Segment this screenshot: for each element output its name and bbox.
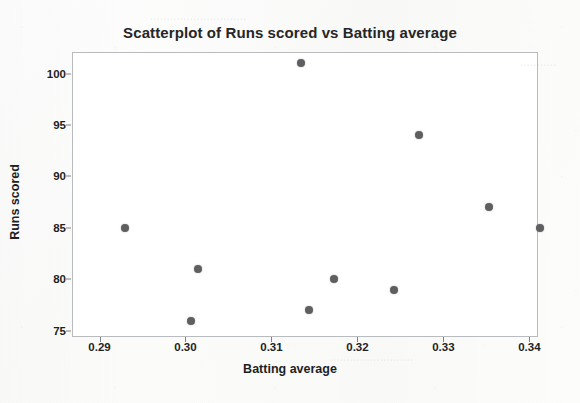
- x-axis-title: Batting average: [0, 362, 580, 376]
- y-axis-tick-label: 85: [32, 222, 66, 234]
- x-axis-tick-mark: [357, 337, 358, 342]
- x-axis-tick-mark: [443, 337, 444, 342]
- y-axis-tick-mark: [66, 176, 71, 177]
- scatterplot-figure: Scatterplot of Runs scored vs Batting av…: [0, 0, 580, 403]
- plot-area-frame: [72, 52, 538, 337]
- y-axis-tick-mark: [66, 73, 71, 74]
- y-axis-tick-label: 90: [32, 170, 66, 182]
- y-axis-tick-mark: [66, 227, 71, 228]
- y-axis-title: Runs scored: [8, 142, 22, 262]
- y-axis-tick-label: 80: [32, 273, 66, 285]
- x-axis-tick-marks: [0, 337, 580, 343]
- y-axis-tick-mark: [66, 330, 71, 331]
- y-axis-tick-label: 95: [32, 119, 66, 131]
- x-axis-tick-mark: [100, 337, 101, 342]
- y-axis-tick-mark: [66, 125, 71, 126]
- chart-title: Scatterplot of Runs scored vs Batting av…: [0, 24, 580, 41]
- x-axis-tick-mark: [529, 337, 530, 342]
- y-axis-tick-mark: [66, 279, 71, 280]
- y-axis-tick-label: 100: [32, 68, 66, 80]
- x-axis-tick-labels: 0.290.300.310.320.330.34: [0, 341, 580, 361]
- y-axis-tick-label: 75: [32, 325, 66, 337]
- x-axis-tick-mark: [271, 337, 272, 342]
- x-axis-tick-mark: [185, 337, 186, 342]
